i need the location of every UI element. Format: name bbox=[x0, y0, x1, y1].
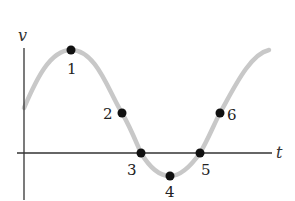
v-axis-label: v bbox=[18, 26, 27, 45]
point-3 bbox=[137, 149, 146, 158]
point-1 bbox=[67, 46, 76, 55]
t-axis-label: t bbox=[276, 143, 283, 162]
point-1-label: 1 bbox=[67, 60, 77, 78]
point-6 bbox=[216, 109, 225, 118]
point-4 bbox=[166, 172, 175, 181]
point-3-label: 3 bbox=[127, 161, 137, 179]
point-4-label: 4 bbox=[165, 183, 175, 201]
point-5 bbox=[196, 149, 205, 158]
point-6-label: 6 bbox=[227, 106, 237, 124]
point-2-label: 2 bbox=[103, 105, 113, 123]
velocity-time-diagram: v t 1 2 3 4 5 6 bbox=[0, 0, 295, 201]
point-2 bbox=[118, 109, 127, 118]
point-5-label: 5 bbox=[201, 161, 211, 179]
